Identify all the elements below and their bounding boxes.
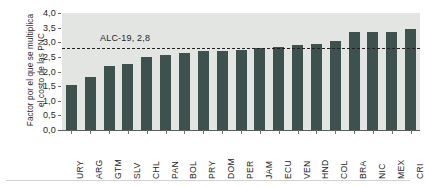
x-tick-label-nic: NIC (377, 163, 387, 179)
x-tick-mark (316, 130, 317, 134)
y-tick-label: 3,0 (43, 37, 56, 47)
y-tick-label: 1,5 (43, 81, 56, 91)
bar-per (236, 50, 247, 130)
x-tick-label-jam: JAM (264, 161, 274, 179)
bar-dom (217, 51, 228, 130)
y-tick-label: 0,0 (43, 125, 56, 135)
bar-nic (367, 32, 378, 130)
x-tick-label-bra: BRA (358, 160, 368, 179)
bar-ury (66, 85, 77, 130)
bottom-divider (6, 180, 410, 181)
x-tick-label-ury: URY (75, 160, 85, 179)
x-tick-mark (279, 130, 280, 134)
reference-line-label: ALC-19, 2,8 (100, 33, 150, 43)
bar-jam (254, 48, 265, 130)
x-tick-label-arg: ARG (94, 159, 104, 179)
x-tick-mark (71, 130, 72, 134)
x-tick-label-pry: PRY (207, 161, 217, 179)
bar-hnd (311, 44, 322, 130)
bar-bol (179, 53, 190, 131)
y-tick-mark (58, 28, 61, 29)
bar-pan (160, 55, 171, 130)
x-tick-mark (392, 130, 393, 134)
bar-ecu (273, 47, 284, 130)
y-tick-mark (58, 13, 61, 14)
x-tick-mark (298, 130, 299, 134)
bars-container: ALC-19, 2,8 (62, 13, 420, 130)
bar-col (330, 41, 341, 130)
plot-area: ALC-19, 2,8 (62, 13, 420, 130)
x-tick-label-per: PER (245, 160, 255, 179)
bar-gtm (104, 66, 115, 130)
x-tick-label-hnd: HND (320, 159, 330, 179)
y-tick-label: 0,5 (43, 110, 56, 120)
x-tick-mark (411, 130, 412, 134)
y-tick-mark (58, 42, 61, 43)
y-tick-label: 2,0 (43, 67, 56, 77)
y-axis-ticks: 0,00,51,01,52,02,53,03,54,0 (30, 0, 60, 140)
y-tick-mark (58, 72, 61, 73)
x-tick-mark (184, 130, 185, 134)
x-tick-label-dom: DOM (226, 158, 236, 179)
x-tick-mark (109, 130, 110, 134)
x-tick-label-cri: CRI (415, 163, 425, 179)
bar-mex (386, 32, 397, 130)
x-tick-label-bol: BOL (188, 161, 198, 179)
y-tick-mark (58, 86, 61, 87)
y-axis-title: Factor por el que se multiplica el costo… (0, 0, 30, 140)
x-tick-mark (147, 130, 148, 134)
x-tick-label-mex: MEX (396, 159, 406, 179)
y-tick-label: 4,0 (43, 8, 56, 18)
bar-slv (122, 64, 133, 130)
x-axis-ticks: URYARGGTMSLVCHLPANBOLPRYDOMPERJAMECUVENH… (62, 130, 420, 186)
x-tick-label-slv: SLV (132, 162, 142, 179)
bar-bra (349, 32, 360, 130)
x-tick-label-ecu: ECU (283, 160, 293, 179)
y-tick-mark (58, 57, 61, 58)
bar-cri (405, 29, 416, 130)
x-tick-mark (373, 130, 374, 134)
bar-pry (198, 51, 209, 130)
x-tick-mark (128, 130, 129, 134)
bar-chl (141, 57, 152, 130)
x-tick-mark (260, 130, 261, 134)
bar-arg (85, 77, 96, 130)
reference-line (62, 48, 420, 49)
y-tick-label: 1,0 (43, 96, 56, 106)
x-tick-label-pan: PAN (170, 161, 180, 179)
x-tick-mark (222, 130, 223, 134)
x-tick-mark (335, 130, 336, 134)
x-tick-label-chl: CHL (151, 161, 161, 179)
y-tick-mark (58, 115, 61, 116)
x-tick-mark (241, 130, 242, 134)
x-tick-label-ven: VEN (302, 160, 312, 179)
bar-ven (292, 45, 303, 130)
x-tick-mark (354, 130, 355, 134)
x-tick-label-gtm: GTM (113, 159, 123, 179)
x-tick-mark (203, 130, 204, 134)
y-tick-label: 2,5 (43, 52, 56, 62)
y-tick-label: 3,5 (43, 23, 56, 33)
y-tick-mark (58, 101, 61, 102)
x-tick-mark (90, 130, 91, 134)
x-tick-mark (166, 130, 167, 134)
x-tick-label-col: COL (339, 160, 349, 179)
